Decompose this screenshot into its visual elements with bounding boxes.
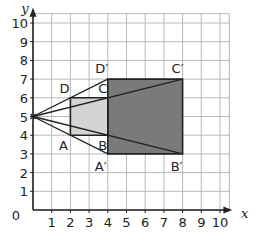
vertex-label-B: B [98, 138, 107, 153]
image-shape-AprimeBprimeCprimeDprime [108, 79, 183, 154]
x-tick-label: 8 [178, 215, 186, 230]
y-tick-label: 7 [20, 72, 28, 87]
y-tick-label: 10 [11, 16, 28, 31]
y-tick-label: 1 [20, 184, 28, 199]
y-tick-label: 9 [20, 35, 28, 50]
vertex-label-image: B′ [171, 159, 183, 174]
vertex-label-image: D′ [95, 61, 108, 76]
x-tick-label: 5 [122, 215, 130, 230]
x-axis-arrow-icon [223, 207, 232, 214]
enlargement-diagram: 12345678910123456789100xyABCDA′B′C′D′ [0, 0, 255, 244]
vertex-label-image: C′ [172, 61, 184, 76]
x-tick-label: 2 [66, 215, 74, 230]
x-tick-label: 6 [141, 215, 149, 230]
y-tick-label: 2 [20, 166, 28, 181]
vertex-label-image: A′ [95, 159, 107, 174]
y-axis-arrow-icon [30, 8, 37, 17]
y-tick-label: 3 [20, 147, 28, 162]
y-axis-label: y [20, 1, 29, 16]
x-tick-label: 10 [212, 215, 229, 230]
x-axis-label: x [241, 206, 249, 221]
x-tick-label: 9 [197, 215, 205, 230]
x-tick-label: 7 [160, 215, 168, 230]
y-tick-label: 8 [20, 53, 28, 68]
origin-label: 0 [12, 208, 20, 223]
original-shape-ABCD [70, 98, 107, 135]
y-tick-label: 5 [20, 110, 28, 125]
vertex-label-D: D [59, 81, 69, 96]
vertex-label-C: C [98, 81, 107, 96]
vertex-label-A: A [59, 138, 68, 153]
x-tick-label: 3 [85, 215, 93, 230]
x-tick-label: 1 [48, 215, 56, 230]
x-tick-label: 4 [104, 215, 112, 230]
y-tick-label: 4 [20, 128, 28, 143]
y-tick-label: 6 [20, 91, 28, 106]
